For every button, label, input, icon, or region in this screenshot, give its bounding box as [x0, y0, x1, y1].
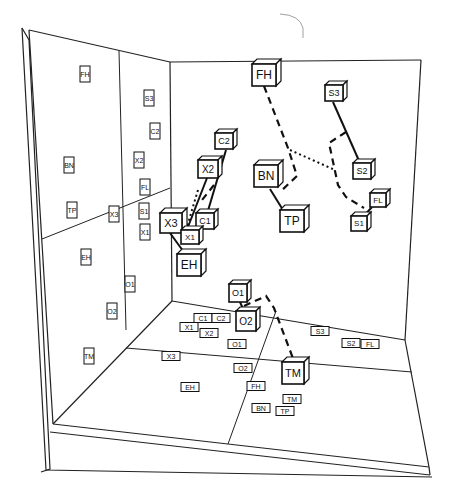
projection-label-eh: EH [181, 383, 199, 392]
room-cluster-diagram: FHS3C2X2BNS2FLTPS1C1X3X1EH O1O2TM FHS3C2… [0, 0, 451, 494]
projection-label-x3: X3 [109, 206, 119, 222]
projection-label-text: X1 [141, 229, 150, 236]
node-label: S1 [354, 219, 364, 228]
node-label: O2 [239, 316, 253, 327]
projection-label-text: C1 [199, 315, 208, 322]
projection-label-text: O1 [125, 281, 134, 288]
projection-label-bn: BN [252, 404, 270, 413]
node-cube-c2: C2 [215, 129, 237, 149]
node-cube-x1: X1 [181, 226, 203, 244]
projection-label-o2: O2 [234, 364, 252, 373]
node-label: TP [284, 214, 299, 228]
node-label: C2 [218, 136, 230, 146]
projection-label-s2: S2 [342, 339, 360, 348]
node-cube-fh: FH [252, 59, 281, 86]
projection-label-x3: X3 [162, 352, 180, 361]
node-label: S3 [328, 88, 339, 98]
projection-label-text: TP [281, 408, 290, 415]
projection-label-text: TP [68, 207, 77, 214]
right-wall-top [170, 60, 421, 62]
left-wall-horizontal-divider [42, 188, 170, 239]
projection-label-text: EH [81, 254, 91, 261]
node-cube-fl: FL [370, 189, 390, 207]
projection-label-x1: X1 [180, 323, 198, 332]
projection-label-x2: X2 [200, 329, 218, 338]
projection-label-text: FL [366, 341, 374, 348]
node-cube-s3: S3 [325, 81, 347, 101]
projection-label-fl: FL [361, 340, 379, 349]
node-cube-bn: BN [254, 160, 283, 187]
projection-label-text: FL [141, 184, 149, 191]
projection-label-text: C2 [151, 128, 160, 135]
node-label: FL [373, 196, 383, 205]
projection-label-text: C2 [217, 315, 226, 322]
projection-label-o1: O1 [125, 276, 135, 292]
connector-bn-tp [270, 189, 283, 210]
right-wall-node-cubes: FHS3C2X2BNS2FLTPS1C1X3X1EH [160, 59, 390, 276]
projection-label-c1: C1 [194, 314, 212, 323]
node-label: BN [258, 169, 275, 183]
projection-label-s1: S1 [139, 203, 149, 219]
node-cube-o2: O2 [236, 307, 260, 331]
pen-mark [280, 14, 303, 38]
projection-label-text: FH [80, 71, 89, 78]
projection-label-text: BN [256, 405, 266, 412]
projection-label-text: FH [251, 383, 260, 390]
projection-label-text: S3 [316, 328, 325, 335]
projection-label-c2: C2 [150, 123, 160, 139]
node-cube-tp: TP [280, 205, 309, 232]
node-label: FH [256, 68, 272, 82]
left-wall-projection-labels: FHS3C2X2BNFLTPX3S1X1EHO1O2TM [64, 66, 160, 364]
right-wall-right-edge [405, 60, 421, 340]
projection-label-text: X2 [135, 157, 144, 164]
projection-label-text: O1 [232, 341, 241, 348]
projection-label-eh: EH [81, 249, 91, 265]
projection-label-tp: TP [276, 407, 294, 416]
node-label: C1 [199, 216, 211, 226]
back-corner [170, 62, 172, 301]
projection-label-text: S2 [347, 340, 356, 347]
projection-label-text: O2 [107, 308, 116, 315]
node-label: O1 [232, 288, 244, 298]
projection-label-text: O2 [238, 365, 247, 372]
projection-label-tm: TM [84, 348, 94, 364]
node-label: X2 [202, 164, 215, 175]
projection-label-o1: O1 [228, 340, 246, 349]
projection-label-tp: TP [67, 202, 77, 218]
projection-label-x2: X2 [134, 152, 144, 168]
projection-label-text: X2 [205, 330, 214, 337]
projection-label-text: X1 [185, 324, 194, 331]
node-cube-s2: S2 [353, 159, 375, 179]
projection-label-fh: FH [80, 66, 90, 82]
node-cube-tm: TM [282, 357, 309, 384]
projection-label-fh: FH [247, 382, 265, 391]
node-cube-s1: S1 [351, 212, 371, 231]
projection-label-tm: TM [283, 395, 301, 404]
node-cube-o1: O1 [229, 280, 251, 302]
projection-label-bn: BN [64, 157, 74, 173]
projection-label-text: BN [64, 162, 74, 169]
node-label: X3 [164, 217, 177, 229]
connector-dotted-middle [290, 150, 335, 170]
projection-label-s3: S3 [144, 90, 154, 106]
left-wall-top [29, 30, 170, 62]
node-label: S2 [356, 166, 367, 176]
projection-label-text: X3 [110, 211, 119, 218]
floor-corner-tick [429, 467, 430, 475]
projection-label-x1: X1 [140, 224, 150, 240]
projection-label-text: TM [287, 396, 297, 403]
projection-label-c2: C2 [212, 314, 230, 323]
projection-label-fl: FL [140, 179, 150, 195]
projection-label-text: S1 [140, 208, 149, 215]
projection-label-text: TM [84, 353, 94, 360]
projection-label-text: EH [185, 384, 195, 391]
node-label: TM [285, 367, 301, 379]
connector-s3-s2 [333, 102, 360, 163]
floor-projection-labels: C1C2X1X2O1X3O2EHFHTMBNTPS3S2FL [162, 314, 379, 416]
projection-label-text: S3 [145, 95, 154, 102]
floor-front-edge [53, 424, 429, 467]
node-label: X1 [185, 233, 195, 242]
node-cube-eh: EH [177, 249, 206, 276]
projection-label-o2: O2 [107, 303, 117, 319]
floor-right-edge [405, 340, 429, 467]
